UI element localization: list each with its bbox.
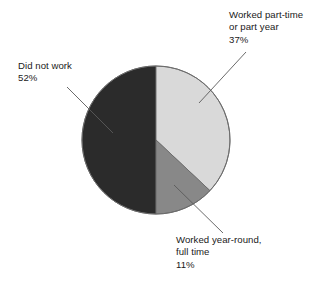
slice-label-did-not-work-line1: Did not work (18, 60, 72, 72)
slice-label-part-time-value: 37% (229, 34, 303, 46)
leader-line-part-time (199, 52, 246, 103)
pie-slice-did-not-work[interactable] (82, 66, 156, 214)
slice-label-did-not-work: Did not work 52% (18, 60, 72, 85)
slice-label-did-not-work-value: 52% (18, 72, 72, 84)
slice-label-part-time-line1: Worked part-time (229, 9, 303, 21)
slice-label-year-round-value: 11% (176, 259, 262, 271)
slice-label-year-round-line1: Worked year-round, (176, 234, 262, 246)
slice-label-worked-part-time: Worked part-time or part year 37% (229, 9, 303, 46)
pie-chart-figure: Worked part-time or part year 37% Did no… (0, 0, 327, 287)
slice-label-worked-year-round: Worked year-round, full time 11% (176, 234, 262, 271)
slice-label-year-round-line2: full time (176, 246, 262, 258)
slice-label-part-time-line2: or part year (229, 21, 303, 33)
